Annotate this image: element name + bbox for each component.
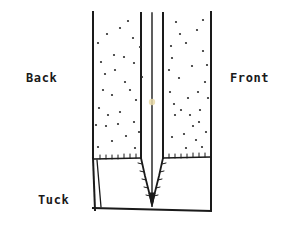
texture-dot	[202, 50, 204, 52]
texture-dot	[196, 29, 198, 31]
texture-dot	[95, 124, 97, 126]
texture-dot	[113, 54, 115, 56]
texture-dot	[111, 140, 113, 142]
texture-dot	[173, 103, 175, 105]
texture-dot	[138, 131, 140, 133]
texture-dot	[114, 69, 116, 71]
texture-dot	[189, 114, 191, 116]
texture-dot	[105, 125, 107, 127]
texture-dot	[191, 65, 193, 67]
texture-dot	[183, 133, 185, 135]
label-tuck: Tuck	[38, 194, 69, 206]
texture-dot	[185, 147, 187, 149]
texture-dot	[123, 56, 125, 58]
fabric-texture-dots-front	[168, 19, 209, 149]
texture-dot	[133, 62, 135, 64]
texture-dot	[207, 97, 209, 99]
panel-bottom-hem	[93, 208, 211, 211]
tuck-left-dart-line	[97, 160, 101, 207]
accent-dot	[149, 99, 155, 105]
texture-dot	[201, 146, 203, 148]
texture-dot	[133, 121, 135, 123]
texture-dot	[132, 37, 134, 39]
texture-dot	[174, 114, 176, 116]
texture-dot	[195, 139, 197, 141]
texture-dot	[204, 81, 206, 83]
texture-dot	[199, 109, 201, 111]
texture-dot	[100, 61, 102, 63]
texture-dot	[102, 89, 104, 91]
texture-dot	[125, 135, 127, 137]
texture-dot	[171, 57, 173, 59]
texture-dot	[129, 89, 131, 91]
texture-dot	[180, 109, 182, 111]
texture-dot	[197, 91, 199, 93]
texture-dot	[107, 114, 109, 116]
texture-dot	[206, 64, 208, 66]
texture-dot	[134, 147, 136, 149]
pleat-construction-diagram	[0, 0, 287, 225]
texture-dot	[97, 146, 99, 148]
texture-dot	[127, 20, 129, 22]
texture-dot	[119, 27, 121, 29]
texture-dot	[119, 111, 121, 113]
texture-dot	[205, 131, 207, 133]
texture-dot	[124, 81, 126, 83]
label-back: Back	[26, 72, 57, 84]
texture-dot	[187, 97, 189, 99]
fabric-texture-dots-back	[95, 20, 143, 149]
texture-dot	[202, 19, 204, 21]
pleat-apex-point	[149, 193, 155, 207]
texture-dot	[141, 76, 143, 78]
texture-dot	[168, 69, 170, 71]
texture-dot	[106, 33, 108, 35]
texture-dot	[175, 21, 177, 23]
texture-dot	[117, 123, 119, 125]
texture-dot	[178, 77, 180, 79]
texture-dot	[135, 99, 137, 101]
texture-dot	[98, 107, 100, 109]
figure-container: Back Front Tuck	[0, 0, 287, 225]
texture-dot	[111, 94, 113, 96]
texture-dot	[171, 136, 173, 138]
tuck-left-outer-edge	[93, 158, 95, 210]
texture-dot	[179, 33, 181, 35]
label-front: Front	[230, 72, 269, 84]
texture-dot	[169, 91, 171, 93]
texture-dot	[104, 73, 106, 75]
texture-dot	[198, 121, 200, 123]
texture-dot	[192, 125, 194, 127]
texture-dot	[170, 45, 172, 47]
texture-dot	[139, 46, 141, 48]
texture-dot	[97, 42, 99, 44]
texture-dot	[185, 42, 187, 44]
